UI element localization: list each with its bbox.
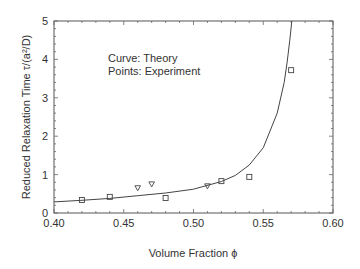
- y-tick-label: 0: [42, 207, 48, 219]
- axis-ticks: [54, 21, 333, 213]
- y-tick-label: 5: [42, 15, 48, 27]
- y-tick-label: 1: [42, 169, 48, 181]
- x-axis-label: Volume Fraction ϕ: [149, 247, 238, 259]
- square-marker: [289, 68, 294, 73]
- x-tick-labels: 0.400.450.500.550.60: [43, 217, 343, 229]
- triangle-marker: [149, 182, 155, 187]
- y-tick-label: 4: [42, 53, 48, 65]
- plot-frame: [54, 21, 333, 213]
- x-tick-label: 0.60: [322, 217, 343, 229]
- triangle-marker: [135, 186, 141, 191]
- y-tick-labels: 012345: [42, 15, 48, 219]
- square-marker: [247, 174, 252, 179]
- y-tick-label: 2: [42, 130, 48, 142]
- theory-curve: [54, 21, 292, 202]
- experiment-points: [79, 68, 293, 203]
- y-axis-label: Reduced Relaxation Time τ/(a²/D): [20, 35, 32, 200]
- x-tick-label: 0.50: [183, 217, 204, 229]
- note-curve: Curve: Theory: [108, 52, 178, 64]
- chart: 0.400.450.500.550.60 012345 Curve: Theor…: [0, 0, 360, 269]
- y-tick-label: 3: [42, 92, 48, 104]
- x-tick-label: 0.45: [113, 217, 134, 229]
- note-points: Points: Experiment: [108, 65, 200, 77]
- square-marker: [163, 196, 168, 201]
- x-tick-label: 0.55: [253, 217, 274, 229]
